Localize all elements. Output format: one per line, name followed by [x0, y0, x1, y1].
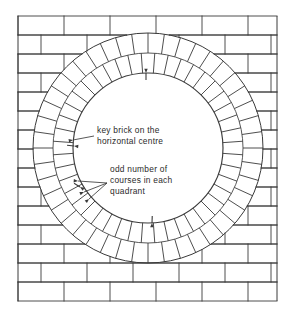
leader-line	[84, 183, 107, 192]
leader-line	[89, 183, 107, 199]
leader-line	[78, 181, 107, 183]
wall-brickwork-layer	[18, 16, 277, 301]
annotation-label: quadrant	[110, 186, 145, 196]
leader-line	[73, 136, 94, 140]
annotation-label: horizontal centre	[97, 136, 163, 146]
tick-upper-left	[67, 145, 74, 146]
figure-canvas: key brick on thehorizontal centreodd num…	[0, 0, 294, 320]
annotation-text-layer: key brick on thehorizontal centreodd num…	[97, 125, 172, 196]
tick-mark-layer	[67, 73, 152, 223]
annotation-label: key brick on the	[97, 125, 160, 135]
arch-voussoir-layer	[33, 33, 263, 263]
leader-line-layer	[68, 69, 153, 228]
annotation-label: odd number of	[110, 164, 168, 174]
annotation-label: courses in each	[110, 175, 172, 185]
brick-arch-diagram: key brick on thehorizontal centreodd num…	[0, 0, 294, 320]
